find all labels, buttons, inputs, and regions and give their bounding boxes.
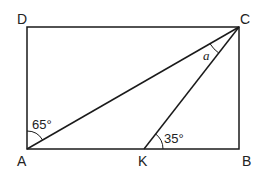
angle-label-a: 65° [32,117,52,132]
segment-ac [27,27,239,149]
angle-label-k: 35° [164,131,184,146]
angle-arc-a [27,131,43,140]
geometry-diagram: D C A K B 65° 35° a [0,0,269,180]
angle-arc-c [210,44,219,53]
angle-label-c: a [203,48,210,63]
label-a: A [17,153,27,169]
segment-kc [144,27,239,149]
label-c: C [240,11,250,27]
angle-arc-k [156,134,163,149]
label-k: K [138,153,148,169]
label-b: B [242,153,251,169]
label-d: D [17,11,27,27]
